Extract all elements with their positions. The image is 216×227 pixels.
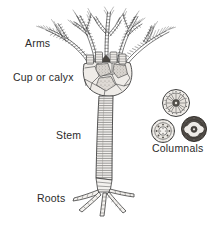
label-arms: Arms [25, 38, 50, 49]
calyx-group [83, 52, 132, 97]
label-roots: Roots [37, 193, 65, 204]
label-columnals: Columnals [152, 143, 203, 154]
columnal-lobed [182, 117, 207, 142]
stem-outline [96, 96, 113, 180]
label-cup-or-calyx: Cup or calyx [13, 72, 74, 83]
columnal-radiate [163, 90, 190, 117]
columnal-beaded [152, 120, 175, 143]
stem-group [96, 96, 113, 180]
crinoid-diagram [0, 0, 216, 227]
label-stem: Stem [56, 130, 81, 141]
